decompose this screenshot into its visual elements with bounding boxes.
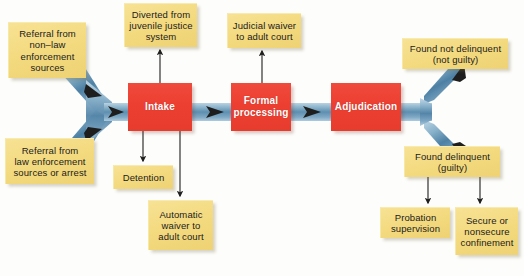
node-label: Intake <box>145 101 175 113</box>
node-automatic-waiver-to-adult-court[interactable]: Automatic waiver to adult court <box>148 200 213 250</box>
node-label: Referral from non–law enforcement source… <box>19 28 76 73</box>
node-referral-law-enforcement[interactable]: Referral from law enforcement sources or… <box>5 138 94 184</box>
pipe-adjudication-out <box>396 103 432 121</box>
node-label: Secure or nonsecure confinement <box>461 215 514 249</box>
node-referral-non-law-enforcement[interactable]: Referral from non–law enforcement source… <box>8 22 86 78</box>
node-found-not-delinquent[interactable]: Found not delinquent (not guilty) <box>402 38 508 69</box>
node-label: Judicial waiver to adult court <box>233 20 296 42</box>
node-stage-intake[interactable]: Intake <box>128 83 192 131</box>
node-judicial-waiver-to-adult-court[interactable]: Judicial waiver to adult court <box>227 13 301 48</box>
flowchart-canvas: Referral from non–law enforcement source… <box>0 0 524 276</box>
node-label: Diverted from juvenile justice system <box>129 9 192 43</box>
node-detention[interactable]: Detention <box>113 165 173 189</box>
node-stage-formal-processing[interactable]: Formal processing <box>231 83 291 131</box>
node-label: Automatic waiver to adult court <box>158 209 203 243</box>
node-label: Referral from law enforcement sources or… <box>14 145 87 179</box>
pipe-formal-to-adjudication <box>286 103 336 121</box>
node-secure-or-nonsecure-confinement[interactable]: Secure or nonsecure confinement <box>455 207 518 255</box>
node-label: Found delinquent (guilty) <box>415 151 490 173</box>
node-label: Detention <box>123 172 165 183</box>
node-found-delinquent[interactable]: Found delinquent (guilty) <box>404 146 500 177</box>
node-probation-supervision[interactable]: Probation supervision <box>380 207 450 238</box>
pipe-intake-to-formal <box>188 103 236 121</box>
node-label: Probation supervision <box>391 212 440 234</box>
node-label: Adjudication <box>335 101 397 113</box>
node-label: Found not delinquent (not guilty) <box>410 43 501 65</box>
node-stage-adjudication[interactable]: Adjudication <box>331 83 401 131</box>
node-label: Formal processing <box>234 95 289 119</box>
node-diverted-from-juvenile-justice-system[interactable]: Diverted from juvenile justice system <box>124 3 197 47</box>
